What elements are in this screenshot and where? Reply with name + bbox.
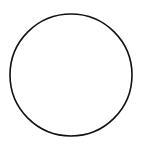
circle-outline — [10, 14, 132, 136]
diagram-canvas — [0, 0, 142, 143]
